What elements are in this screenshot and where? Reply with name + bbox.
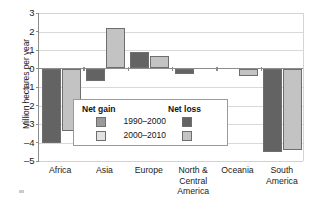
category-label-1: Asia xyxy=(82,165,126,176)
y-tick-label--3: –3 xyxy=(24,119,35,129)
x-tick-3 xyxy=(172,67,173,71)
category-label-3: North & Central America xyxy=(171,165,215,197)
y-tick-mark--3 xyxy=(36,124,40,125)
category-label-4: Oceania xyxy=(215,165,259,176)
legend-label-1990-2000: 1990–2000 xyxy=(110,116,166,126)
gridline-3 xyxy=(39,13,303,14)
y-tick-label--1: –1 xyxy=(24,82,35,92)
gridline-2 xyxy=(39,32,303,33)
legend-heading-net-loss: Net loss xyxy=(168,104,201,114)
y-tick-label--2: –2 xyxy=(24,101,35,111)
bar-0-series-0 xyxy=(42,69,61,143)
y-tick-label-3: 3 xyxy=(29,8,34,18)
legend-heading-net-gain: Net gain xyxy=(82,104,116,114)
y-tick-mark-3 xyxy=(36,13,40,14)
x-tick-4 xyxy=(216,67,217,71)
bar-5-series-1 xyxy=(283,69,302,150)
y-tick-label-1: 1 xyxy=(29,45,34,55)
y-tick-label--5: –5 xyxy=(24,156,35,166)
bar-2-series-0 xyxy=(130,52,149,69)
legend-swatch-net-loss-1990-2000 xyxy=(182,117,192,127)
gridline-1 xyxy=(39,50,303,51)
y-tick-mark--2 xyxy=(36,105,40,106)
y-tick-label-2: 2 xyxy=(29,27,34,37)
y-tick-mark--4 xyxy=(36,142,40,143)
bar-4-series-1 xyxy=(239,69,258,76)
x-tick-1 xyxy=(83,67,84,71)
legend-swatch-net-gain-1990-2000 xyxy=(96,117,106,127)
bar-5-series-0 xyxy=(263,69,282,152)
category-label-5: South America xyxy=(260,165,304,186)
bar-1-series-0 xyxy=(86,69,105,82)
chart-legend: Net gain Net loss 1990–2000 2000–2010 xyxy=(73,99,228,146)
bar-2-series-1 xyxy=(150,56,169,69)
y-tick-mark--1 xyxy=(36,87,40,88)
legend-label-2000-2010: 2000–2010 xyxy=(110,130,166,140)
y-tick-mark-2 xyxy=(36,31,40,32)
x-tick-5 xyxy=(261,67,262,71)
bar-3-series-0 xyxy=(175,69,194,75)
category-label-2: Europe xyxy=(127,165,171,176)
y-tick-mark--5 xyxy=(36,161,40,162)
bar-1-series-1 xyxy=(106,28,125,69)
legend-swatch-net-loss-2000-2010 xyxy=(182,131,192,141)
y-tick-label-0: 0 xyxy=(29,64,34,74)
zero-baseline xyxy=(39,68,303,69)
y-tick-mark-1 xyxy=(36,50,40,51)
category-label-0: Africa xyxy=(38,165,82,176)
bar-chart: Million hectares per year 3210–1–2–3–4–5… xyxy=(0,0,312,201)
y-tick-label--4: –4 xyxy=(24,138,35,148)
page-artifact-mark xyxy=(19,190,24,193)
legend-swatch-net-gain-2000-2010 xyxy=(96,131,106,141)
gridline--5 xyxy=(39,161,303,162)
x-tick-2 xyxy=(128,67,129,71)
